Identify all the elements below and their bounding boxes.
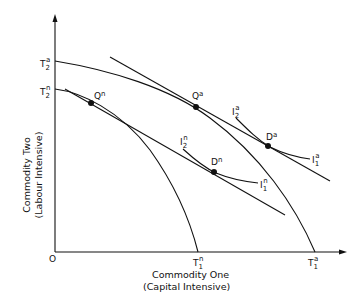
label-T1a: T1a bbox=[307, 255, 318, 271]
label-T2a: T2a bbox=[39, 56, 50, 72]
label-Dn: Dn bbox=[211, 156, 222, 167]
x-axis-title: Commodity One bbox=[152, 269, 229, 280]
point-Dn bbox=[211, 169, 217, 175]
point-Da bbox=[265, 143, 271, 149]
point-Qa bbox=[193, 104, 199, 110]
label-I2n: I2n bbox=[180, 134, 188, 150]
label-Qa: Qa bbox=[192, 90, 203, 101]
y-axis-arrow-icon bbox=[53, 14, 58, 22]
y-axis-subtitle: (Labour Intensive) bbox=[33, 132, 44, 219]
label-I1n: I1n bbox=[260, 177, 268, 193]
label-I2a: I2a bbox=[232, 104, 239, 120]
label-Da: Da bbox=[266, 131, 277, 142]
x-axis-arrow-icon bbox=[339, 250, 347, 255]
price-line-n bbox=[65, 89, 285, 215]
ppf-autarky-curve bbox=[55, 89, 198, 252]
x-axis-subtitle: (Capital Intensive) bbox=[143, 281, 230, 292]
label-Qn: Qn bbox=[94, 90, 106, 101]
origin-label: O bbox=[49, 254, 56, 264]
trade-diagram: Qn Qa Dn Da T2a T2n T1n T1a I2a I1a I2n … bbox=[0, 0, 359, 306]
label-I1a: I1a bbox=[312, 152, 319, 168]
y-axis-title: Commodity Two bbox=[21, 137, 32, 213]
ppf-trade-curve bbox=[55, 61, 315, 252]
label-T2n: T2n bbox=[39, 84, 50, 100]
